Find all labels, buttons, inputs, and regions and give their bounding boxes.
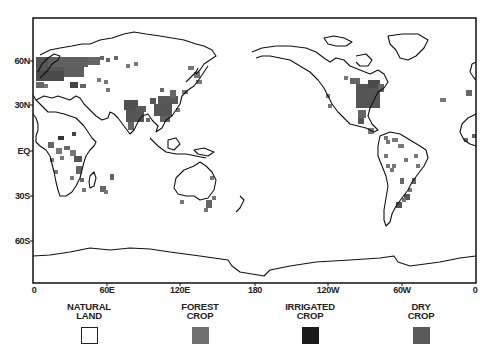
crop-cell [72, 132, 76, 136]
crop-cell [384, 154, 388, 158]
crop-cell [70, 176, 74, 180]
coastline-canada-arctic [324, 36, 352, 46]
crop-cells-layer [36, 56, 476, 212]
coastline-new-zealand [236, 196, 244, 212]
crop-cell [358, 118, 364, 124]
crop-cell [328, 104, 332, 108]
coastline-mediterranean [36, 96, 84, 104]
crop-cell [88, 57, 100, 65]
crop-cell [150, 98, 156, 104]
crop-cell [206, 200, 212, 208]
crop-cell [358, 110, 366, 118]
crop-cell [212, 196, 216, 200]
crop-cell [404, 158, 408, 162]
crop-cell [392, 138, 398, 142]
crop-cell [400, 178, 404, 184]
crop-cell [440, 98, 446, 102]
crop-cell [210, 176, 214, 180]
y-tick-60s: 60S [15, 237, 30, 246]
crop-cell [44, 84, 48, 88]
coastline-borneo [168, 138, 180, 150]
crop-cell [146, 118, 150, 122]
crop-cell [398, 144, 404, 148]
legend-irrigated-crop: IRRIGATED CROP [270, 302, 350, 344]
legend-forest-crop: FOREST CROP [160, 302, 240, 344]
crop-cell [106, 58, 110, 62]
crop-cell [80, 178, 84, 182]
crop-cell [136, 106, 146, 112]
crop-cell [386, 164, 390, 168]
crop-cell [390, 168, 394, 172]
y-tick-60n: 60N [14, 57, 30, 66]
natural-land-swatch [81, 327, 98, 344]
crop-cell [416, 164, 420, 168]
legend-label-line2: CROP [381, 311, 461, 320]
crop-cell [160, 88, 164, 92]
crop-cell [64, 146, 70, 150]
y-tick-30n: 30N [14, 101, 30, 110]
crop-cell [384, 136, 388, 140]
crop-cell [126, 64, 130, 68]
crop-cell [100, 56, 104, 60]
crop-cell [188, 66, 194, 70]
crop-cell [36, 82, 44, 88]
crop-cell [402, 198, 406, 202]
crop-cell [350, 78, 360, 84]
crop-cell [82, 188, 86, 192]
coastline-madagascar [89, 172, 96, 188]
x-tick-120e: 120E [170, 286, 190, 295]
crop-cell [36, 71, 64, 81]
crop-cell [414, 154, 418, 158]
crop-cell [110, 174, 114, 180]
crop-cell [104, 80, 108, 84]
crop-cell [74, 156, 82, 162]
coastline-europe-wrap [470, 62, 476, 80]
legend-label-line2: CROP [270, 311, 350, 320]
x-tick-60e: 60E [99, 286, 114, 295]
world-map [0, 0, 491, 300]
irrigated-crop-swatch [302, 327, 319, 344]
legend-natural-land: NATURAL LAND [49, 302, 129, 344]
coastline-antarctica [33, 248, 476, 276]
crop-cell [70, 82, 78, 88]
coastline-australia [174, 162, 216, 200]
crop-cell [128, 122, 134, 130]
axis-ticks [30, 61, 402, 286]
crop-cell [204, 208, 208, 212]
legend-label-line2: LAND [49, 311, 129, 320]
crop-cell [48, 57, 88, 67]
crop-cell [104, 190, 108, 194]
x-tick-180: 180 [248, 286, 262, 295]
coastline-hudson-bay [356, 54, 372, 66]
crop-cell [180, 200, 184, 204]
crop-cell [386, 140, 390, 144]
legend-dry-crop: DRY CROP [381, 302, 461, 344]
crop-cell [64, 67, 84, 77]
forest-crop-swatch [192, 327, 209, 344]
y-tick-30s: 30S [15, 192, 30, 201]
crop-cell [466, 90, 472, 96]
x-tick-60w: 60W [393, 286, 411, 295]
crop-cell [154, 104, 172, 116]
coastline-greenland [388, 34, 428, 60]
crop-cell [170, 90, 176, 98]
legend-label-line2: CROP [160, 311, 240, 320]
y-tick-eq: EQ [18, 147, 30, 156]
crop-cell [344, 76, 348, 80]
crop-cell [114, 56, 118, 60]
crop-cell [134, 62, 138, 66]
crop-cell [48, 142, 54, 148]
crop-cell [60, 156, 64, 160]
x-tick-0: 0 [32, 286, 37, 295]
coastline-europe-africa [33, 95, 96, 196]
crop-cell [97, 78, 101, 82]
crop-cell [80, 84, 86, 88]
x-tick-120w: 120W [317, 286, 339, 295]
crop-cell [106, 88, 110, 92]
crop-cell [58, 136, 64, 140]
x-tick-0-right: 0 [473, 286, 478, 295]
crop-cell [70, 150, 76, 156]
crop-cell [392, 164, 396, 168]
crop-cell [124, 100, 138, 110]
dry-crop-swatch [413, 327, 430, 344]
